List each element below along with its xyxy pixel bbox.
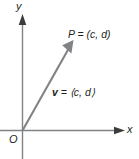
x-axis-label: x [127,124,133,135]
vector-equation-text: = ⟨c, d⟩ [58,86,95,98]
arrow-up-icon [19,14,27,25]
vector-label: v = ⟨c, d⟩ [52,87,95,98]
vector-diagram-figure: y x O P = (c, d) v = ⟨c, d⟩ [0,0,139,159]
arrow-right-icon [114,127,125,135]
point-p-label: P = (c, d) [68,29,111,40]
coordinate-plane-svg [0,0,139,159]
origin-label: O [9,134,18,145]
y-axis-label: y [16,1,22,12]
